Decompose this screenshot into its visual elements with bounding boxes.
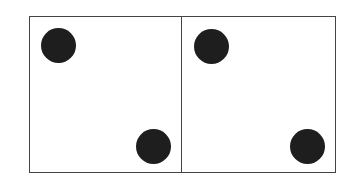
dot-right-bottom — [290, 129, 325, 164]
dot-left-bottom — [136, 129, 171, 164]
dot-right-top — [194, 29, 229, 64]
dot-left-top — [41, 28, 76, 63]
